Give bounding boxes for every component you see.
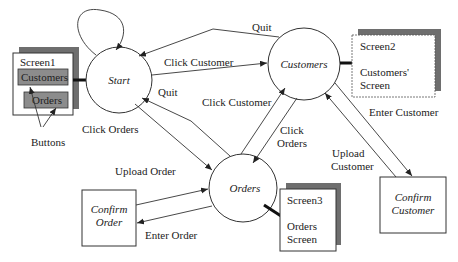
edge-click-orders-left-label: Click Orders bbox=[82, 123, 139, 135]
orders-button-label: Orders bbox=[32, 94, 62, 106]
edge-click-customer-top-label: Click Customer bbox=[164, 56, 234, 68]
edge-click-orders-right-line1: Click bbox=[280, 124, 304, 136]
screen2-title: Screen2 bbox=[360, 40, 395, 52]
state-customers-label: Customers bbox=[280, 58, 327, 70]
screen3-body-line2: Screen bbox=[287, 233, 317, 245]
edge-upload-order-label: Upload Order bbox=[115, 165, 176, 177]
confirm-customer-line1: Confirm bbox=[395, 191, 432, 203]
edge-quit-top-label: Quit bbox=[252, 21, 272, 33]
state-confirm-order[interactable]: Confirm Order bbox=[82, 190, 136, 246]
screen1-title: Screen1 bbox=[20, 56, 55, 68]
edge-enter-order-label: Enter Order bbox=[145, 229, 198, 241]
screen3-body-line1: Orders bbox=[287, 220, 317, 232]
edge-upload-customer-line1: Upload bbox=[332, 147, 365, 159]
state-start[interactable]: Start bbox=[86, 47, 152, 113]
state-start-label: Start bbox=[108, 74, 130, 86]
buttons-annotation: Buttons bbox=[31, 136, 65, 148]
state-orders[interactable]: Orders bbox=[209, 154, 277, 222]
customers-button-label: Customers bbox=[21, 71, 68, 83]
state-confirm-customer[interactable]: Confirm Customer bbox=[380, 177, 446, 233]
screen3-box: Screen3 Orders Screen bbox=[280, 183, 341, 251]
screen2-body-line1: Customers' bbox=[360, 66, 409, 78]
state-customers[interactable]: Customers bbox=[268, 28, 340, 100]
edge-upload-order bbox=[136, 189, 208, 205]
edge-click-customer-mid-label: Click Customer bbox=[202, 96, 272, 108]
state-diagram: Screen1 Customers Orders Buttons Start C… bbox=[0, 0, 458, 262]
edge-quit-mid-label: Quit bbox=[158, 86, 178, 98]
edge-click-orders-right-line2: Orders bbox=[277, 137, 307, 149]
edge-enter-customer-label: Enter Customer bbox=[369, 106, 439, 118]
edge-enter-order bbox=[137, 206, 212, 223]
screen1-box: Screen1 Customers Orders bbox=[13, 47, 79, 115]
screen3-title: Screen3 bbox=[287, 194, 323, 206]
screen2-box: Screen2 Customers' Screen bbox=[352, 29, 441, 97]
state-orders-label: Orders bbox=[230, 182, 261, 194]
screen2-body-line2: Screen bbox=[360, 79, 390, 91]
edge-quit-top bbox=[139, 29, 279, 56]
confirm-order-line2: Order bbox=[96, 216, 123, 228]
edge-click-orders-left bbox=[135, 104, 212, 170]
confirm-customer-line2: Customer bbox=[392, 204, 436, 216]
confirm-order-line1: Confirm bbox=[91, 203, 128, 215]
edge-upload-customer-line2: Customer bbox=[331, 160, 374, 172]
